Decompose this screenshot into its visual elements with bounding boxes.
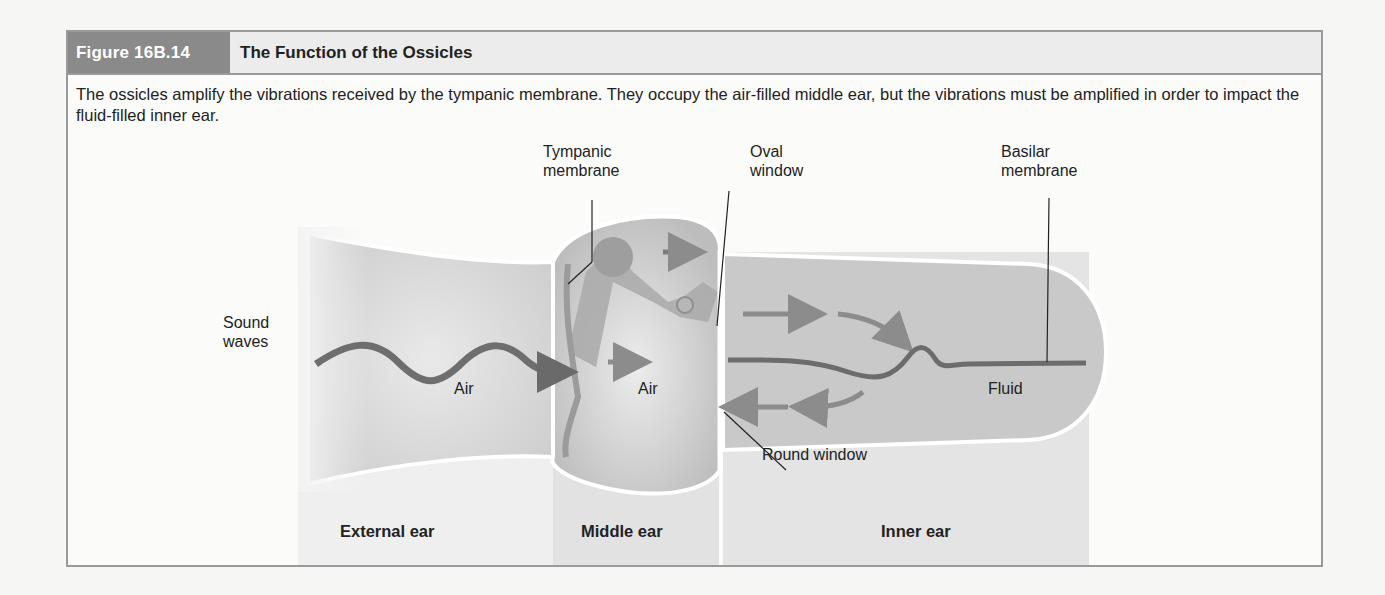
inner-fluid-label: Fluid (988, 380, 1023, 398)
tympanic-membrane-label: Tympanic membrane (543, 142, 619, 180)
figure-header: Figure 16B.14 The Function of the Ossicl… (68, 32, 1321, 75)
malleus-head (593, 237, 633, 277)
incus-joint (677, 297, 693, 313)
middle-air-label: Air (638, 380, 658, 398)
basilar-membrane-label: Basilar membrane (1001, 142, 1077, 180)
figure-caption: The ossicles amplify the vibrations rece… (76, 84, 1306, 126)
round-window-label: Round window (762, 445, 867, 464)
ossicles-diagram: Tympanic membrane Oval window Basilar me… (68, 132, 1321, 565)
oval-window-label: Oval window (750, 142, 803, 180)
sound-waves-label: Sound waves (223, 313, 269, 351)
external-ear-region-label: External ear (340, 522, 434, 541)
figure-frame: Figure 16B.14 The Function of the Ossicl… (66, 30, 1323, 567)
inner-ear-region-label: Inner ear (881, 522, 951, 541)
figure-number: Figure 16B.14 (68, 32, 230, 73)
external-air-label: Air (454, 380, 474, 398)
figure-title: The Function of the Ossicles (240, 32, 472, 73)
middle-ear-region-label: Middle ear (581, 522, 663, 541)
